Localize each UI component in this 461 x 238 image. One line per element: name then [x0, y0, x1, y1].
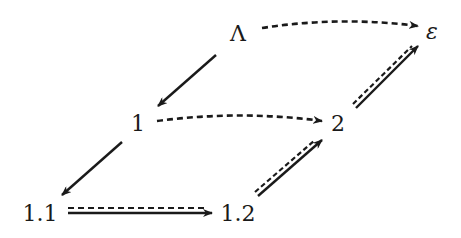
edge-1.2-to-2: [255, 140, 322, 196]
edge-1.1-to-1.2: [68, 208, 212, 213]
node-lambda: Λ: [230, 23, 246, 45]
node-1-2: 1.2: [221, 203, 256, 225]
edge-2-to-epsilon: [353, 46, 418, 108]
edge-lambda-to-epsilon: [262, 21, 418, 28]
node-epsilon: ε: [426, 21, 438, 43]
diagram-canvas: Λ ε 1 2 1.1 1.2: [0, 0, 461, 238]
edge-1-to-2: [157, 116, 322, 122]
edge-lambda-to-1: [158, 55, 216, 106]
edge-1-to-1.1: [62, 142, 122, 195]
node-2: 2: [331, 113, 345, 135]
node-1: 1: [131, 113, 145, 135]
node-1-1: 1.1: [23, 203, 58, 225]
